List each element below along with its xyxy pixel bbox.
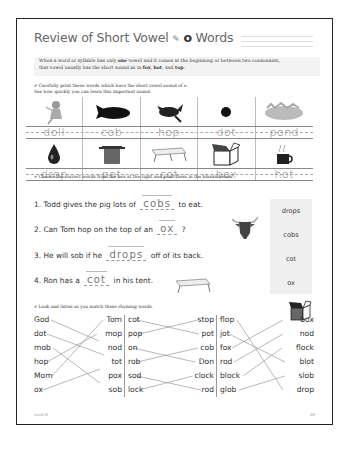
instruction-match-rhymes: ✔ Look and listen as you match these rhy… [34, 304, 314, 310]
traced-word[interactable]: hop [141, 127, 198, 138]
sentence-4: 4. Ron has a cot in his tent. [34, 275, 153, 286]
match-word[interactable]: mop [105, 329, 122, 338]
ox-picture [230, 215, 260, 241]
match-word[interactable]: glob [220, 385, 236, 394]
match-word[interactable]: drop [297, 385, 314, 394]
match-word[interactable]: fox [220, 343, 232, 352]
worksheet-page: Review of Short Vowel ✎ o Words When a w… [16, 18, 333, 425]
match-word[interactable]: cot [128, 315, 140, 324]
match-word[interactable]: Tom [107, 315, 122, 324]
name-lines [241, 36, 313, 51]
traced-word[interactable]: pond [256, 127, 313, 138]
match-word[interactable]: nod [108, 343, 122, 352]
pot-picture [83, 139, 140, 168]
answer-blank[interactable]: ox [157, 224, 177, 235]
word-bank-item: ox [270, 279, 312, 287]
sentence-3: 3. He will sob if he drops off of its ba… [34, 250, 203, 261]
match-word[interactable]: nod [300, 329, 314, 338]
match-word[interactable]: ox [34, 385, 43, 394]
traced-word[interactable]: doll [26, 127, 83, 138]
drop-picture [26, 139, 83, 168]
doll-picture [26, 97, 83, 126]
match-word[interactable]: lock [128, 385, 143, 394]
answer-blank[interactable]: cot [84, 275, 109, 286]
pond-picture [256, 97, 313, 126]
page-title: Review of Short Vowel ✎ o Words [34, 30, 233, 45]
match-word[interactable]: on [128, 343, 137, 352]
answer-blank[interactable]: drops [106, 250, 146, 261]
match-word[interactable]: flock [296, 343, 314, 352]
footer-level: Level B [34, 412, 48, 417]
match-word[interactable]: sod [128, 371, 141, 380]
matching-lines [17, 315, 334, 415]
match-word[interactable]: pox [108, 371, 122, 380]
match-word[interactable]: hop [34, 357, 48, 366]
picture-row-2 [26, 139, 313, 168]
match-word[interactable]: stop [198, 315, 214, 324]
writing-row-1: doll cob hop dot pond [26, 126, 313, 139]
traced-word[interactable]: cob [83, 127, 140, 138]
match-word[interactable]: slob [298, 371, 314, 380]
match-word[interactable]: dot [34, 329, 46, 338]
word-bank-item: drops [270, 207, 312, 215]
rule-box: When a word or syllable has only one vow… [34, 57, 320, 76]
picture-row-1 [26, 97, 313, 126]
answer-blank[interactable]: cobs [140, 199, 174, 210]
page-number: 89 [310, 412, 315, 417]
match-word[interactable]: block [220, 371, 240, 380]
match-word[interactable]: God [34, 315, 49, 324]
match-word[interactable]: sob [109, 385, 122, 394]
match-word[interactable]: box [300, 315, 314, 324]
word-bank-item: cobs [270, 231, 312, 239]
pencil-icon: ✎ [172, 34, 179, 44]
rabbit-hop-picture [141, 97, 198, 126]
match-word[interactable]: blot [299, 357, 314, 366]
match-word[interactable]: cob [200, 343, 214, 352]
instruction-print-words: ✔ Carefully print these words which have… [34, 83, 314, 95]
dot-picture [198, 97, 255, 126]
word-grid: doll cob hop dot pond [26, 97, 313, 181]
word-bank: drops cobs cot ox [270, 199, 312, 294]
match-word[interactable]: rob [128, 357, 140, 366]
match-word[interactable]: flop [220, 315, 234, 324]
match-word[interactable]: mob [34, 343, 51, 352]
sentence-2: 2. Can Tom hop on the top of an ox ? [34, 224, 186, 235]
cot-picture [141, 139, 198, 168]
traced-word[interactable]: dot [198, 127, 255, 138]
rhyme-matching: God dot mob hop Mom ox Tom mop nod tot p… [17, 315, 334, 415]
match-word[interactable]: pop [128, 329, 142, 338]
match-word[interactable]: rod [220, 357, 232, 366]
cot-picture-small [172, 275, 214, 295]
match-word[interactable]: pot [202, 329, 214, 338]
word-bank-item: cot [270, 255, 312, 263]
match-word[interactable]: rod [202, 385, 214, 394]
match-word[interactable]: tot [111, 357, 122, 366]
corn-cob-picture [83, 97, 140, 126]
match-word[interactable]: clock [194, 371, 214, 380]
box-picture [198, 139, 255, 168]
match-word[interactable]: jot [220, 329, 230, 338]
instruction-choose-words: ✔ Choose the correct words from the box … [34, 174, 314, 180]
hot-cup-picture [256, 139, 313, 168]
match-word[interactable]: Don [199, 357, 214, 366]
sentence-1: 1. Todd gives the pig lots of cobs to ea… [34, 199, 203, 210]
match-word[interactable]: Mom [34, 371, 53, 380]
